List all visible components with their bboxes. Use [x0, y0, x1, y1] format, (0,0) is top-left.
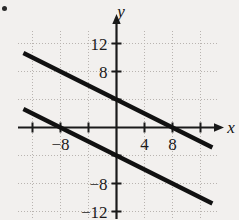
axes — [18, 14, 224, 219]
x-tick-label: −8 — [51, 135, 69, 154]
x-tick-label: 8 — [168, 135, 177, 154]
coordinate-plane-svg: −848−12−8812 y x — [0, 0, 239, 219]
y-tick-label: 12 — [91, 35, 108, 54]
x-axis-label: x — [226, 118, 235, 137]
y-tick-label: −12 — [81, 203, 108, 220]
y-axis-label: y — [115, 2, 125, 21]
y-tick-label: 8 — [99, 63, 108, 82]
x-axis-arrowhead — [214, 123, 224, 131]
plotted-line — [23, 109, 212, 204]
plotted-line — [23, 53, 212, 148]
graph-figure: −848−12−8812 y x — [0, 0, 239, 219]
y-tick-label: −8 — [89, 175, 107, 194]
x-tick-label: 4 — [140, 135, 149, 154]
